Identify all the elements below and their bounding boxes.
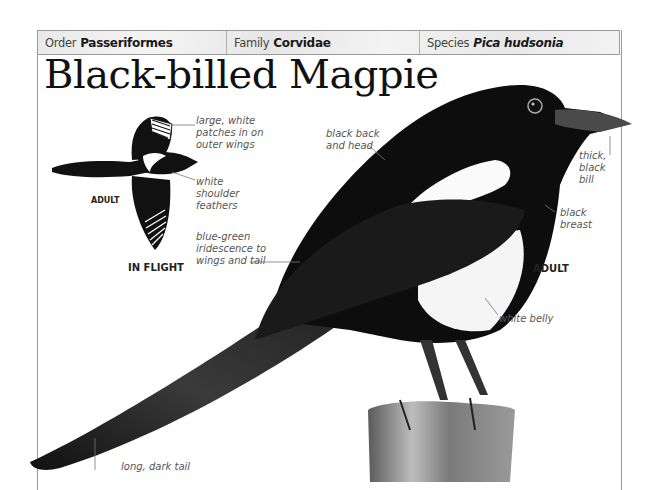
wooden-post xyxy=(368,401,515,482)
perched-age-tag: ADULT xyxy=(533,263,569,274)
perched-magpie-icon xyxy=(255,85,632,400)
inflight-caption: IN FLIGHT xyxy=(128,262,184,273)
annotation-back-head: black back and head xyxy=(326,128,380,152)
annotation-iridescence: blue-green iridescence to wings and tail xyxy=(196,231,266,267)
flying-magpie-icon xyxy=(52,116,198,250)
annotation-tail: long, dark tail xyxy=(121,461,190,473)
annotation-line: wings and tail xyxy=(196,255,266,267)
inflight-age-tag: ADULT xyxy=(91,196,120,205)
annotation-line: blue-green xyxy=(196,231,266,243)
annotation-line: shoulder xyxy=(196,188,239,200)
annotation-line: white xyxy=(196,176,239,188)
annotation-wing-patches: large, white patches in on outer wings xyxy=(196,115,264,151)
annotation-line: feathers xyxy=(196,200,239,212)
annotation-line: white belly xyxy=(499,313,554,325)
annotation-line: black xyxy=(560,207,592,219)
annotation-line: thick, xyxy=(579,150,607,162)
annotation-line: long, dark tail xyxy=(121,461,190,473)
annotation-line: iridescence to xyxy=(196,243,266,255)
annotation-bill: thick, black bill xyxy=(579,150,607,186)
annotation-line: patches in on xyxy=(196,127,264,139)
annotation-line: and head xyxy=(326,140,380,152)
annotation-line: large, white xyxy=(196,115,264,127)
annotation-shoulder: white shoulder feathers xyxy=(196,176,239,212)
annotation-belly: white belly xyxy=(499,313,554,325)
annotation-line: black xyxy=(579,162,607,174)
annotation-line: breast xyxy=(560,219,592,231)
annotation-line: bill xyxy=(579,174,607,186)
annotation-line: black back xyxy=(326,128,380,140)
annotation-breast: black breast xyxy=(560,207,592,231)
annotation-line: outer wings xyxy=(196,139,264,151)
